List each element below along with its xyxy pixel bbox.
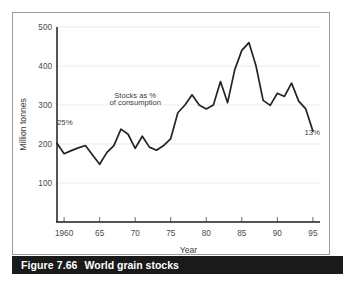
x-tick-label: 90 bbox=[273, 229, 283, 238]
x-tick-label: 85 bbox=[237, 229, 247, 238]
y-tick-labels: 100200300400500 bbox=[38, 23, 52, 188]
annotation-series-callout-line2: of consumption bbox=[109, 98, 161, 107]
annotation-start-pct: 25% bbox=[57, 118, 73, 127]
axis-lines bbox=[56, 27, 320, 222]
figure-caption-title: World grain stocks bbox=[85, 259, 179, 271]
y-tick-label: 100 bbox=[38, 179, 52, 188]
x-tick-labels: 196065707580859095 bbox=[55, 229, 318, 238]
x-tick-label: 80 bbox=[202, 229, 212, 238]
figure-caption-number: Figure 7.66 bbox=[21, 259, 78, 271]
y-tick-label: 300 bbox=[38, 101, 52, 110]
data-series-line bbox=[57, 43, 313, 165]
y-tick-label: 200 bbox=[38, 140, 52, 149]
x-tick-label: 95 bbox=[308, 229, 318, 238]
x-tick-label: 1960 bbox=[55, 229, 74, 238]
annotation-end-pct: 13% bbox=[304, 128, 320, 137]
x-tick-label: 65 bbox=[95, 229, 105, 238]
y-axis-title: Million tonnes bbox=[18, 98, 28, 151]
figure-caption-bar: Figure 7.66 World grain stocks bbox=[12, 256, 343, 274]
x-tick-label: 70 bbox=[131, 229, 141, 238]
y-tick-label: 500 bbox=[38, 23, 52, 32]
x-tick-label: 75 bbox=[166, 229, 176, 238]
chart-annotations: 25%13%Stocks as %of consumption bbox=[57, 91, 320, 137]
x-axis-title: Year bbox=[180, 245, 198, 255]
world-grain-stocks-chart: 100200300400500 196065707580859095 25%13… bbox=[12, 12, 330, 255]
figure-container: 100200300400500 196065707580859095 25%13… bbox=[0, 0, 343, 285]
y-tick-label: 400 bbox=[38, 62, 52, 71]
